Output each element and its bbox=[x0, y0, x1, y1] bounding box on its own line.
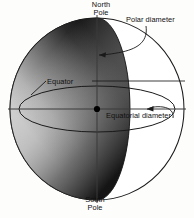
north-pole-label: North Pole bbox=[78, 1, 124, 18]
south-pole-label: South Pole bbox=[72, 196, 118, 213]
polar-diameter-label: Polar diameter bbox=[126, 16, 175, 24]
center-point-icon bbox=[94, 106, 100, 112]
earth-diagram: North Pole South Pole Polar diameter Equ… bbox=[0, 0, 194, 218]
north-pole-label-line2: Pole bbox=[78, 9, 124, 17]
globe-sphere-icon bbox=[0, 0, 194, 218]
equator-label: Equator bbox=[47, 78, 73, 86]
south-pole-label-line2: Pole bbox=[72, 204, 118, 212]
equatorial-diameter-label: Equatorial diameter bbox=[106, 112, 171, 120]
